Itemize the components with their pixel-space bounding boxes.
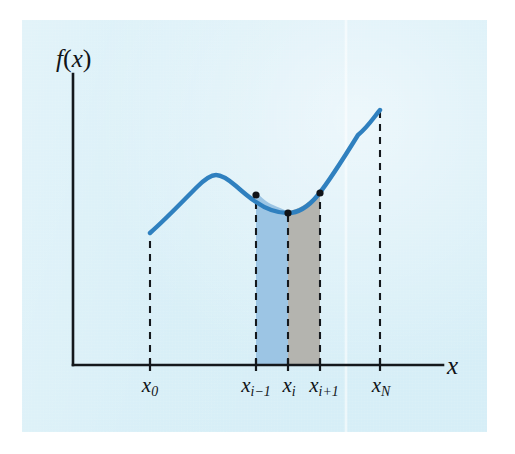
y-axis-label: f(x): [56, 44, 91, 74]
tick-label-xim1-base: x: [241, 373, 250, 397]
shaded-band-left: [256, 192, 288, 365]
tick-label-xip1-sub: i+1: [319, 384, 339, 399]
tick-label-xN-base: x: [372, 373, 381, 397]
tick-label-xi: xi: [282, 373, 295, 400]
y-axis-label-open-paren: (: [63, 44, 72, 73]
tick-label-xip1: xi+1: [309, 373, 338, 400]
y-axis-label-variable: x: [72, 45, 83, 72]
tick-label-xN: xN: [372, 373, 391, 400]
marker-dot-xim1: [252, 191, 259, 198]
tick-label-xip1-base: x: [309, 373, 318, 397]
y-axis-label-close-paren: ): [83, 44, 92, 73]
marker-dot-xip1: [316, 189, 323, 196]
tick-label-x0-sub: 0: [151, 384, 158, 399]
tick-label-xim1: xi−1: [241, 373, 270, 400]
y-axis-label-function: f: [56, 45, 63, 72]
marker-dot-xi: [284, 209, 291, 216]
tick-label-x0: x0: [142, 373, 158, 400]
shaded-band-right: [288, 191, 320, 365]
tick-label-xN-sub: N: [381, 384, 390, 399]
tick-label-xim1-sub: i−1: [251, 384, 271, 399]
tick-label-x0-base: x: [142, 373, 151, 397]
figure-root: f(x) x x0 xi−1 xi xi+1 xN: [0, 0, 515, 454]
x-axis-label: x: [447, 352, 458, 380]
tick-label-xi-sub: i: [292, 384, 296, 399]
tick-label-xi-base: x: [282, 373, 291, 397]
